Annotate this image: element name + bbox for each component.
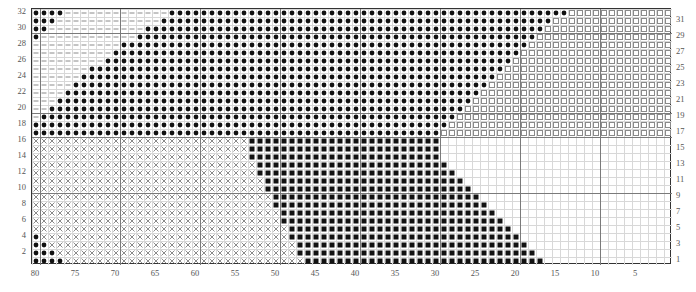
- x-axis-tick: 30: [425, 269, 445, 278]
- x-axis-tick: 60: [185, 269, 205, 278]
- x-axis-tick: 25: [465, 269, 485, 278]
- y-axis-right-tick: 17: [676, 127, 696, 136]
- y-axis-right-tick: 1: [676, 255, 696, 264]
- y-axis-left-tick: 2: [6, 247, 26, 256]
- x-axis-tick: 70: [105, 269, 125, 278]
- y-axis-right-tick: 9: [676, 191, 696, 200]
- y-axis-left-tick: 14: [6, 151, 26, 160]
- y-axis-right-tick: 23: [676, 79, 696, 88]
- y-axis-left-tick: 8: [6, 199, 26, 208]
- x-axis-tick: 15: [545, 269, 565, 278]
- y-axis-right-tick: 25: [676, 63, 696, 72]
- x-axis-tick: 40: [345, 269, 365, 278]
- y-axis-left-tick: 22: [6, 87, 26, 96]
- x-axis-tick: 65: [145, 269, 165, 278]
- y-axis-right-tick: 13: [676, 159, 696, 168]
- x-axis-tick: 20: [505, 269, 525, 278]
- x-axis-tick: 10: [585, 269, 605, 278]
- y-axis-left-tick: 18: [6, 119, 26, 128]
- y-axis-left-tick: 28: [6, 39, 26, 48]
- y-axis-right-tick: 11: [676, 175, 696, 184]
- y-axis-left-tick: 24: [6, 71, 26, 80]
- y-axis-left-tick: 12: [6, 167, 26, 176]
- y-axis-left-tick: 10: [6, 183, 26, 192]
- y-axis-right-tick: 3: [676, 239, 696, 248]
- y-axis-left-tick: 6: [6, 215, 26, 224]
- pattern-grid[interactable]: [31, 8, 671, 264]
- y-axis-left-tick: 20: [6, 103, 26, 112]
- pattern-grid-canvas[interactable]: [32, 9, 672, 265]
- y-axis-right-tick: 5: [676, 223, 696, 232]
- x-axis-tick: 50: [265, 269, 285, 278]
- y-axis-right-tick: 31: [676, 15, 696, 24]
- y-axis-left-tick: 4: [6, 231, 26, 240]
- y-axis-right-tick: 15: [676, 143, 696, 152]
- y-axis-left-tick: 16: [6, 135, 26, 144]
- pattern-chart: 2468101214161820222426283032 13579111315…: [31, 8, 671, 264]
- y-axis-right-tick: 21: [676, 95, 696, 104]
- y-axis-left-tick: 26: [6, 55, 26, 64]
- cross-stitch-chart-page: 2468101214161820222426283032 13579111315…: [0, 0, 696, 292]
- x-axis-tick: 35: [385, 269, 405, 278]
- y-axis-right-tick: 27: [676, 47, 696, 56]
- x-axis-tick: 75: [65, 269, 85, 278]
- y-axis-right-tick: 29: [676, 31, 696, 40]
- y-axis-left-tick: 32: [6, 7, 26, 16]
- x-axis-tick: 80: [25, 269, 45, 278]
- x-axis-tick: 45: [305, 269, 325, 278]
- y-axis-left-tick: 30: [6, 23, 26, 32]
- x-axis-tick: 5: [625, 269, 645, 278]
- y-axis-right-tick: 19: [676, 111, 696, 120]
- x-axis-tick: 55: [225, 269, 245, 278]
- y-axis-right-tick: 7: [676, 207, 696, 216]
